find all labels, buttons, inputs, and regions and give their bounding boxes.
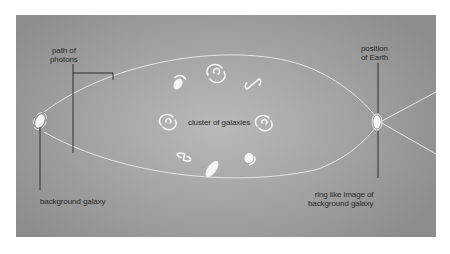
spiral-galaxy-icon	[159, 114, 176, 129]
cluster-of-galaxies-label: cluster of galaxies	[188, 118, 250, 127]
background-galaxy-label: background galaxy	[40, 197, 105, 206]
barred-galaxy-icon	[244, 75, 263, 93]
label-line: position	[361, 44, 388, 53]
galaxy-icon	[243, 152, 257, 166]
spiral-galaxy-icon	[207, 64, 225, 82]
ring-image-icon	[372, 114, 382, 130]
lower-photon-path	[44, 92, 436, 178]
spiral-galaxy-icon	[255, 115, 272, 130]
barred-galaxy-icon	[177, 152, 192, 161]
path-of-photons-label: path of photons	[50, 46, 78, 64]
galaxy-icon	[170, 73, 186, 91]
label-line: photons	[50, 55, 78, 64]
edge-on-galaxy-icon	[204, 159, 221, 178]
label-line: ring like image of	[308, 190, 373, 199]
label-line: of Earth	[361, 53, 388, 62]
photon-path-leader	[73, 64, 113, 153]
label-line: background galaxy	[308, 199, 373, 208]
label-line: path of	[50, 46, 78, 55]
ring-image-label: ring like image of background galaxy	[308, 190, 373, 208]
upper-photon-path	[44, 55, 436, 154]
position-of-earth-label: position of Earth	[361, 44, 388, 62]
diagram-panel: path of photons position of Earth cluste…	[16, 15, 436, 237]
